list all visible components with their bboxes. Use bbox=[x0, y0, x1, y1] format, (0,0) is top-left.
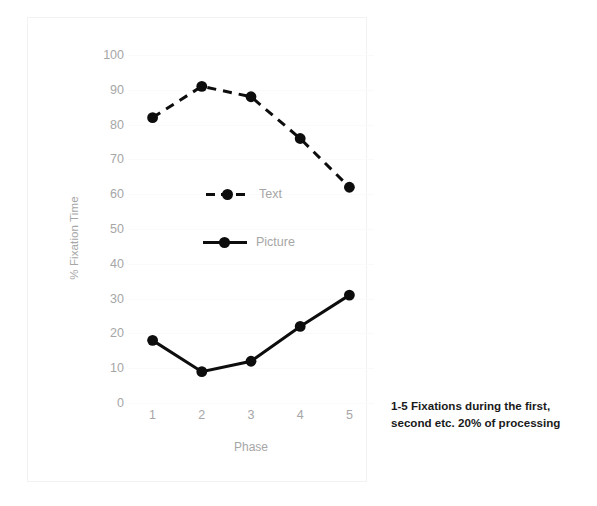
y-axis-tick: 0 bbox=[84, 397, 124, 410]
y-axis-tick: 90 bbox=[84, 84, 124, 97]
legend-item-text[interactable]: Text bbox=[206, 186, 282, 202]
data-point-picture-3[interactable] bbox=[246, 356, 257, 367]
y-axis-tick: 40 bbox=[84, 258, 124, 271]
data-point-text-1[interactable] bbox=[147, 112, 158, 123]
y-axis-tick-labels: 1009080706050403020100 bbox=[84, 18, 124, 481]
x-axis-tick: 1 bbox=[133, 408, 173, 422]
data-point-text-4[interactable] bbox=[295, 133, 306, 144]
legend-marker-dashed-icon bbox=[206, 187, 250, 201]
caption-line-1: 1-5 Fixations during the first, bbox=[391, 399, 550, 412]
legend-marker-solid-icon bbox=[203, 235, 247, 249]
y-axis-title: % Fixation Time bbox=[68, 43, 80, 173]
y-axis-tick: 50 bbox=[84, 223, 124, 236]
y-axis-tick: 70 bbox=[84, 153, 124, 166]
data-point-picture-5[interactable] bbox=[344, 290, 355, 301]
legend-item-picture[interactable]: Picture bbox=[203, 234, 295, 250]
legend-label-text: Text bbox=[259, 187, 282, 201]
caption-line-2: second etc. 20% of processing bbox=[391, 415, 591, 432]
gridline bbox=[128, 403, 374, 404]
x-axis-tick: 3 bbox=[231, 408, 271, 422]
data-point-text-5[interactable] bbox=[344, 182, 355, 193]
y-axis-tick: 60 bbox=[84, 188, 124, 201]
data-point-text-2[interactable] bbox=[196, 81, 207, 92]
data-point-picture-4[interactable] bbox=[295, 321, 306, 332]
series-svg bbox=[128, 55, 374, 403]
y-axis-tick: 30 bbox=[84, 292, 124, 305]
y-axis-tick: 10 bbox=[84, 362, 124, 375]
data-point-picture-1[interactable] bbox=[147, 335, 158, 346]
x-axis-tick-labels: 12345 bbox=[128, 408, 374, 426]
x-axis-tick: 5 bbox=[329, 408, 369, 422]
data-point-picture-2[interactable] bbox=[196, 366, 207, 377]
x-axis-title: Phase bbox=[128, 440, 374, 454]
legend-label-picture: Picture bbox=[256, 235, 295, 249]
y-axis-title-label: % Fixation Time bbox=[68, 173, 80, 303]
chart-figure: % Fixation Time 1009080706050403020100 1… bbox=[27, 17, 367, 482]
plot-area bbox=[128, 55, 374, 403]
y-axis-tick: 20 bbox=[84, 327, 124, 340]
x-axis-tick: 2 bbox=[182, 408, 222, 422]
data-point-text-3[interactable] bbox=[246, 91, 257, 102]
y-axis-tick: 100 bbox=[84, 49, 124, 62]
x-axis-tick: 4 bbox=[280, 408, 320, 422]
y-axis-tick: 80 bbox=[84, 118, 124, 131]
figure-caption: 1-5 Fixations during the first, second e… bbox=[391, 398, 591, 432]
